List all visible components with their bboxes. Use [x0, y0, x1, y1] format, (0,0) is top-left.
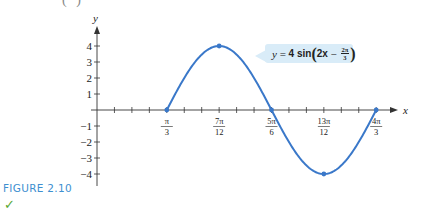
eq-arg: 2x	[317, 48, 328, 59]
x-tick-label-den: 3	[165, 127, 169, 137]
x-axis-arrow-icon	[390, 107, 398, 113]
y-tick-label: 4	[87, 40, 93, 52]
equation-label: y = 4 sin(2x − 2π3)	[265, 44, 353, 63]
key-point	[321, 172, 326, 177]
y-tick-label: −3	[80, 152, 92, 164]
eq-equals: =	[280, 48, 286, 60]
figure-label: FIGURE 2.10	[3, 182, 72, 194]
x-tick-label-num: 13π	[317, 116, 331, 126]
eq-lhs: y	[272, 48, 277, 60]
y-tick-label: 1	[87, 88, 93, 100]
eq-func: sin	[297, 48, 311, 59]
x-axis-label: x	[402, 104, 408, 116]
y-tick-label: −4	[80, 168, 92, 180]
y-tick-label: −1	[80, 120, 92, 132]
y-tick-label: 2	[87, 72, 93, 84]
eq-frac-den: 3	[343, 54, 346, 61]
check-mark-icon: ✓	[4, 198, 15, 208]
x-tick-label-num: π	[165, 116, 170, 126]
key-point	[374, 108, 379, 113]
x-tick-label-den: 12	[320, 127, 329, 137]
key-point	[164, 108, 169, 113]
x-tick-label-den: 12	[215, 127, 224, 137]
eq-fraction: 2π3	[341, 46, 350, 61]
eq-rparen: )	[350, 47, 355, 61]
y-tick-label: 3	[87, 56, 93, 68]
key-point	[269, 108, 274, 113]
sine-graph: xy−4−3−2−11234π37π125π613π124π3	[0, 0, 432, 208]
key-point	[217, 44, 222, 49]
eq-frac-num: 2π	[341, 46, 350, 54]
y-axis-label: y	[92, 12, 98, 24]
y-axis-arrow-icon	[94, 26, 100, 34]
x-tick-label-den: 6	[269, 127, 273, 137]
eq-minus: −	[331, 48, 337, 60]
x-tick-label-num: 7π	[215, 116, 224, 126]
y-tick-label: −2	[80, 136, 92, 148]
eq-coef: 4	[289, 48, 295, 59]
x-tick-label-den: 3	[374, 127, 378, 137]
